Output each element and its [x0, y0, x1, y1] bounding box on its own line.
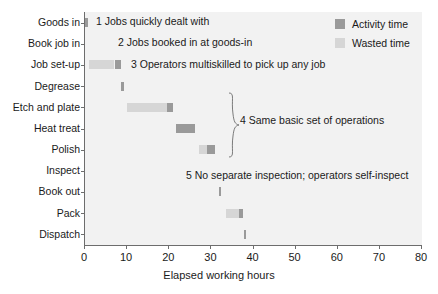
- y-label-book-job-in: Book job in: [2, 37, 80, 49]
- x-tick-60: [337, 245, 338, 249]
- bar-row-pack: [85, 203, 422, 224]
- bar-activity-polish: [207, 145, 215, 154]
- gantt-chart: Goods in Book job in Job set-up Degrease…: [0, 0, 438, 294]
- bar-wasted-job-set-up: [89, 60, 114, 69]
- bar-wasted-polish: [199, 145, 207, 154]
- x-tick-20: [168, 245, 169, 249]
- bar-activity-dispatch: [244, 230, 246, 239]
- bar-wasted-etch-and-plate: [127, 103, 167, 112]
- bar-activity-pack: [239, 209, 243, 218]
- legend-item-wasted-time: Wasted time: [335, 37, 435, 49]
- x-tick-label-20: 20: [162, 251, 174, 263]
- x-tick-0: [84, 245, 85, 249]
- x-tick-label-50: 50: [288, 251, 300, 263]
- x-tick-10: [126, 245, 127, 249]
- y-label-heat-treat: Heat treat: [2, 122, 80, 134]
- bar-activity-job-set-up: [115, 60, 121, 69]
- bar-activity-goods-in: [85, 18, 88, 27]
- legend: Activity time Wasted time: [335, 18, 435, 56]
- x-tick-label-80: 80: [415, 251, 427, 263]
- y-label-polish: Polish: [2, 143, 80, 155]
- bar-row-book-out: [85, 181, 422, 202]
- y-label-degrease: Degrease: [2, 80, 80, 92]
- bar-activity-etch-and-plate: [167, 103, 173, 112]
- bar-row-dispatch: [85, 224, 422, 245]
- y-label-job-set-up: Job set-up: [2, 58, 80, 70]
- y-label-dispatch: Dispatch: [2, 228, 80, 240]
- y-axis-labels: Goods in Book job in Job set-up Degrease…: [0, 12, 80, 245]
- legend-label-activity-time: Activity time: [352, 18, 408, 30]
- bar-activity-degrease: [121, 82, 124, 91]
- x-tick-80: [421, 245, 422, 249]
- x-tick-label-0: 0: [81, 251, 87, 263]
- bar-row-degrease: [85, 76, 422, 97]
- x-tick-30: [210, 245, 211, 249]
- x-tick-label-30: 30: [204, 251, 216, 263]
- bar-activity-heat-treat: [176, 124, 195, 133]
- y-label-book-out: Book out: [2, 185, 80, 197]
- legend-label-wasted-time: Wasted time: [352, 37, 410, 49]
- x-tick-label-10: 10: [120, 251, 132, 263]
- legend-item-activity-time: Activity time: [335, 18, 435, 30]
- annotation-5: 5 No separate inspection; operators self…: [186, 169, 408, 181]
- x-axis-title: Elapsed working hours: [0, 269, 438, 281]
- annotation-3: 3 Operators multiskilled to pick up any …: [131, 58, 325, 70]
- x-tick-50: [295, 245, 296, 249]
- bar-activity-book-out: [219, 187, 221, 196]
- x-tick-label-60: 60: [331, 251, 343, 263]
- annotation-1: 1 Jobs quickly dealt with: [96, 15, 209, 27]
- y-label-pack: Pack: [2, 207, 80, 219]
- legend-swatch-wasted-time: [335, 38, 345, 48]
- y-label-goods-in: Goods in: [2, 16, 80, 28]
- annotation-2: 2 Jobs booked in at goods-in: [118, 36, 252, 48]
- bar-wasted-pack: [226, 209, 239, 218]
- legend-swatch-activity-time: [335, 19, 345, 29]
- bar-row-polish: [85, 139, 422, 160]
- annotation-4: 4 Same basic set of operations: [240, 114, 384, 126]
- x-tick-label-70: 70: [373, 251, 385, 263]
- y-label-etch-and-plate: Etch and plate: [2, 101, 80, 113]
- x-tick-40: [253, 245, 254, 249]
- x-tick-label-40: 40: [246, 251, 258, 263]
- brace-bracket: [228, 92, 240, 158]
- x-tick-70: [379, 245, 380, 249]
- y-label-inspect: Inspect: [2, 164, 80, 176]
